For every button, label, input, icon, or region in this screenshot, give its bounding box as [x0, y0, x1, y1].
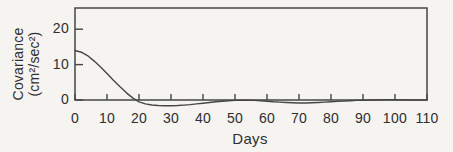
y-tick-label: 0	[41, 91, 69, 107]
y-tick-label: 10	[41, 56, 69, 72]
x-tick-label: 50	[219, 110, 251, 126]
x-tick-label: 40	[187, 110, 219, 126]
x-tick-label: 20	[123, 110, 155, 126]
plot-frame	[75, 8, 427, 100]
x-tick-label: 10	[91, 110, 123, 126]
x-tick-label: 70	[283, 110, 315, 126]
covariance-curve	[75, 51, 427, 106]
x-tick-label: 90	[347, 110, 379, 126]
x-axis-label: Days	[218, 130, 282, 147]
covariance-chart-figure: Covariance (cm²/sec²) Days 0102030405060…	[0, 0, 453, 152]
y-tick-label: 20	[41, 20, 69, 36]
x-tick-label: 0	[59, 110, 91, 126]
x-tick-label: 60	[251, 110, 283, 126]
x-tick-label: 110	[411, 110, 443, 126]
y-axis-title-line2: (cm²/sec²)	[26, 18, 42, 110]
x-tick-label: 80	[315, 110, 347, 126]
y-axis-title: Covariance (cm²/sec²)	[10, 18, 44, 110]
x-tick-label: 100	[379, 110, 411, 126]
y-axis-title-line1: Covariance	[10, 18, 26, 110]
x-tick-label: 30	[155, 110, 187, 126]
